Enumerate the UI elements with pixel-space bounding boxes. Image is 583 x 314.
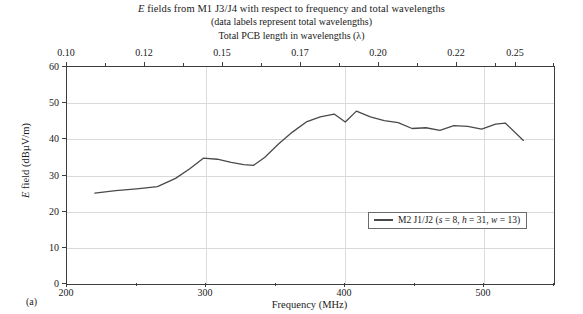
- y-tick-label-0: 0: [29, 278, 59, 289]
- x-tick-label-500: 500: [476, 287, 491, 298]
- series-layer: [67, 67, 554, 284]
- legend-val-w: = 13): [497, 215, 520, 225]
- legend[interactable]: M2 J1/J2 (s = 8, h = 31, w = 13): [368, 212, 527, 229]
- x-tick-minor-250: [136, 283, 137, 286]
- x-tick-label-400: 400: [337, 287, 352, 298]
- x-tick-minor-450: [414, 283, 415, 286]
- y-axis-title: E field (dBµV/m): [20, 61, 31, 261]
- x-tick-label-200: 200: [59, 287, 74, 298]
- legend-val-h: = 31,: [467, 215, 491, 225]
- plot-inner: [67, 67, 554, 284]
- plot-area: [66, 66, 555, 285]
- top-tick-label-4: 0.20: [369, 47, 387, 58]
- x-axis-title: Frequency (MHz): [66, 299, 553, 310]
- legend-label-m2-j1-j2: M2 J1/J2 (s = 8, h = 31, w = 13): [398, 215, 520, 225]
- figure-caption: (a): [26, 296, 37, 307]
- top-tick-label-2: 0.15: [213, 47, 231, 58]
- y-tick-label-40: 40: [29, 133, 59, 144]
- series-line-m2-j1-j2: [95, 111, 524, 193]
- top-tick-label-0: 0.10: [57, 47, 75, 58]
- y-tick-label-10: 10: [29, 242, 59, 253]
- y-tick-label-50: 50: [29, 97, 59, 108]
- top-tick-label-5: 0.22: [447, 47, 465, 58]
- x-tick-minor-550: [553, 283, 554, 286]
- y-tick-label-60: 60: [29, 61, 59, 72]
- y-tick-label-30: 30: [29, 170, 59, 181]
- chart-title: E fields from M1 J3/J4 with respect to f…: [0, 2, 583, 15]
- x-tick-label-300: 300: [198, 287, 213, 298]
- top-tick-label-1: 0.12: [135, 47, 153, 58]
- legend-swatch-m2-j1-j2: [374, 219, 393, 221]
- y-axis-title-italic-e: E: [20, 192, 31, 198]
- y-axis-title-rest: field (dBµV/m): [20, 123, 31, 191]
- chart-subtitle: (data labels represent total wavelengths…: [0, 15, 583, 28]
- top-tick-label-3: 0.17: [291, 47, 309, 58]
- top-tick-label-6: 0.25: [506, 47, 524, 58]
- chart-title-block: E fields from M1 J3/J4 with respect to f…: [0, 2, 583, 28]
- chart-title-rest: fields from M1 J3/J4 with respect to fre…: [144, 3, 445, 14]
- figure-container: E fields from M1 J3/J4 with respect to f…: [0, 0, 583, 314]
- x-tick-minor-350: [275, 283, 276, 286]
- top-axis-title: Total PCB length in wavelengths (λ): [0, 30, 583, 41]
- legend-series-name: M2 J1/J2: [398, 215, 435, 225]
- legend-val-s: = 8,: [442, 215, 462, 225]
- y-tick-label-20: 20: [29, 206, 59, 217]
